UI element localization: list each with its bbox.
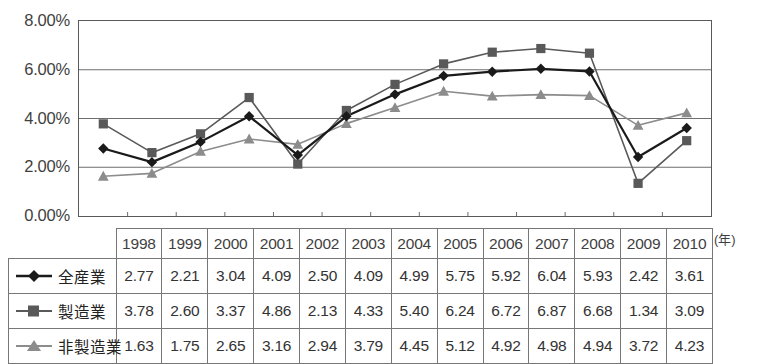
- table-cell: 6.04: [529, 259, 575, 294]
- table-year-header: 2001: [254, 229, 300, 259]
- table-cell: 6.72: [483, 294, 529, 329]
- table-body: 全産業2.772.213.044.092.504.094.995.755.926…: [9, 259, 713, 364]
- table-cell: 4.45: [391, 329, 437, 364]
- marker-diamond: [438, 71, 448, 81]
- marker-diamond: [633, 152, 643, 162]
- table-year-header: 2009: [621, 229, 667, 259]
- table-cell: 1.75: [162, 329, 208, 364]
- table-cell: 2.94: [300, 329, 346, 364]
- table-cell: 4.92: [483, 329, 529, 364]
- table-cell: 4.23: [667, 329, 713, 364]
- y-tick-label: 2.00%: [24, 158, 70, 175]
- table-cell: 2.50: [300, 259, 346, 294]
- table-row: 製造業3.782.603.374.862.134.335.406.246.726…: [9, 294, 713, 329]
- marker-square: [293, 159, 302, 168]
- marker-square: [585, 49, 594, 58]
- table-cell: 1.34: [621, 294, 667, 329]
- y-axis: 0.00%2.00%4.00%6.00%8.00%: [0, 0, 74, 228]
- series-label: 非製造業: [58, 335, 122, 357]
- legend-triangle-icon: [14, 338, 54, 354]
- plot-svg: [79, 21, 711, 216]
- y-tick-label: 6.00%: [24, 61, 70, 78]
- marker-square: [633, 179, 642, 188]
- marker-square: [682, 136, 691, 145]
- table-cell: 5.92: [483, 259, 529, 294]
- marker-diamond: [147, 157, 157, 167]
- table-year-header: 1998: [116, 229, 162, 259]
- table-cell: 3.72: [621, 329, 667, 364]
- marker-triangle: [438, 86, 449, 96]
- table-cell: 2.21: [162, 259, 208, 294]
- table-cell: 5.93: [575, 259, 621, 294]
- table-cell: 4.98: [529, 329, 575, 364]
- marker-diamond: [98, 143, 108, 153]
- legend-diamond-icon: [14, 268, 54, 284]
- table-cell: 6.68: [575, 294, 621, 329]
- table-year-header: 2005: [437, 229, 483, 259]
- marker-diamond: [536, 64, 546, 74]
- table-cell: 1.63: [116, 329, 162, 364]
- marker-square: [390, 80, 399, 89]
- table-row: 全産業2.772.213.044.092.504.094.995.755.926…: [9, 259, 713, 294]
- legend-cell-非製造業: 非製造業: [9, 329, 117, 364]
- table-cell: 3.61: [667, 259, 713, 294]
- legend-square-icon: [14, 303, 54, 319]
- y-tick-label: 8.00%: [24, 12, 70, 29]
- line-chart: 0.00%2.00%4.00%6.00%8.00%: [0, 0, 764, 228]
- table-cell: 2.65: [208, 329, 254, 364]
- table-cell: 3.04: [208, 259, 254, 294]
- table-year-header: 2000: [208, 229, 254, 259]
- marker-triangle: [244, 134, 255, 144]
- marker-diamond: [681, 123, 691, 133]
- table-cell: 2.60: [162, 294, 208, 329]
- table-cell: 6.24: [437, 294, 483, 329]
- table-year-header: 2007: [529, 229, 575, 259]
- marker-square: [147, 148, 156, 157]
- table-cell: 3.79: [345, 329, 391, 364]
- table-cell: 4.99: [391, 259, 437, 294]
- legend-cell-製造業: 製造業: [9, 294, 117, 329]
- marker-diamond: [390, 89, 400, 99]
- table-header-row: 1998199920002001200220032004200520062007…: [9, 229, 713, 259]
- chart-page: 0.00%2.00%4.00%6.00%8.00% 19981999200020…: [0, 0, 764, 364]
- table-cell: 4.86: [254, 294, 300, 329]
- series-line-製造業: [103, 49, 686, 184]
- table-cell: 3.37: [208, 294, 254, 329]
- legend-cell-全産業: 全産業: [9, 259, 117, 294]
- table-cell: 4.94: [575, 329, 621, 364]
- table-year-header: 2003: [345, 229, 391, 259]
- table-year-header: 2002: [300, 229, 346, 259]
- table-cell: 3.16: [254, 329, 300, 364]
- marker-diamond: [584, 66, 594, 76]
- table-cell: 5.12: [437, 329, 483, 364]
- marker-square: [99, 119, 108, 128]
- table-row: 非製造業1.631.752.653.162.943.794.455.124.92…: [9, 329, 713, 364]
- marker-square: [439, 59, 448, 68]
- table-cell: 2.42: [621, 259, 667, 294]
- marker-diamond: [487, 67, 497, 77]
- table-year-header: 2008: [575, 229, 621, 259]
- table-year-header: 1999: [162, 229, 208, 259]
- marker-square: [488, 48, 497, 57]
- table-cell: 3.78: [116, 294, 162, 329]
- table-cell: 5.75: [437, 259, 483, 294]
- data-table: 1998199920002001200220032004200520062007…: [8, 228, 713, 364]
- series-label: 全産業: [58, 265, 106, 287]
- table-cell: 6.87: [529, 294, 575, 329]
- table-cell: 4.09: [254, 259, 300, 294]
- table-year-header: 2010: [667, 229, 713, 259]
- y-tick-label: 0.00%: [24, 207, 70, 224]
- data-table-wrapper: 1998199920002001200220032004200520062007…: [8, 228, 713, 362]
- marker-square: [536, 44, 545, 53]
- table-cell: 3.09: [667, 294, 713, 329]
- table-cell: 5.40: [391, 294, 437, 329]
- table-cell: 4.09: [345, 259, 391, 294]
- y-tick-label: 4.00%: [24, 110, 70, 127]
- table-cell: 2.13: [300, 294, 346, 329]
- table-cell: 2.77: [116, 259, 162, 294]
- marker-triangle: [681, 107, 692, 117]
- series-label: 製造業: [58, 300, 106, 322]
- table-year-header: 2006: [483, 229, 529, 259]
- table-cell: 4.33: [345, 294, 391, 329]
- plot-area: [78, 20, 712, 217]
